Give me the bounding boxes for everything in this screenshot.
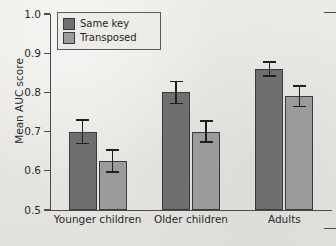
error-bar-line (82, 120, 84, 144)
x-axis-label: Older children (144, 213, 237, 225)
y-axis-tick-label: 0.6 (0, 165, 41, 175)
y-axis-tick (44, 13, 50, 14)
y-axis-tick-label: 0.8 (0, 87, 41, 97)
legend-swatch-same (63, 18, 75, 30)
error-bar-line (299, 86, 301, 106)
legend-label: Same key (80, 19, 129, 29)
chart-legend: Same keyTransposed (57, 12, 161, 50)
bar-chart: Mean AUC score 1.00.90.80.70.60.5 Younge… (0, 0, 336, 246)
x-axis-line (50, 210, 332, 211)
y-axis-tick (44, 53, 50, 54)
y-axis-tick-label: 0.5 (0, 205, 41, 215)
error-bar-line (175, 81, 177, 103)
legend-label: Transposed (80, 33, 137, 43)
y-axis-tick-label: 0.9 (0, 48, 41, 58)
error-bar-line (205, 121, 207, 142)
y-axis-tick (44, 92, 50, 93)
error-bar-line (269, 62, 271, 76)
error-bar-line (112, 150, 114, 172)
page-margin-mark-top (324, 12, 336, 13)
legend-item: Transposed (63, 31, 155, 45)
y-axis-tick (44, 131, 50, 132)
error-bar-cap-lower (76, 143, 89, 145)
legend-item: Same key (63, 17, 155, 31)
legend-swatch-transposed (63, 32, 75, 44)
error-bar-cap-lower (263, 75, 276, 77)
error-bar-cap-upper (200, 120, 213, 122)
error-bar-cap-upper (76, 119, 89, 121)
y-axis-tick (44, 209, 50, 210)
error-bar-cap-upper (293, 85, 306, 87)
error-bar-cap-upper (106, 149, 119, 151)
y-axis-tick-label: 1.0 (0, 9, 41, 19)
bar (255, 69, 283, 210)
bar (285, 96, 313, 210)
y-axis-line (50, 14, 51, 211)
y-axis-tick (44, 170, 50, 171)
page-margin-mark-bottom (324, 228, 336, 229)
error-bar-cap-lower (170, 103, 183, 105)
x-axis-label: Adults (238, 213, 331, 225)
error-bar-cap-upper (170, 81, 183, 83)
bar (162, 92, 190, 210)
y-axis-title: Mean AUC score (13, 41, 25, 161)
error-bar-cap-lower (200, 141, 213, 143)
error-bar-cap-lower (293, 106, 306, 108)
y-axis-tick-label: 0.7 (0, 126, 41, 136)
bar (192, 132, 220, 210)
error-bar-cap-lower (106, 171, 119, 173)
x-axis-label: Younger children (51, 213, 144, 225)
error-bar-cap-upper (263, 61, 276, 63)
